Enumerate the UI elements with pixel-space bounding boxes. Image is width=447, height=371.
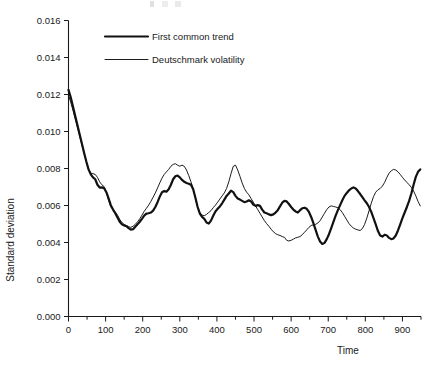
x-tick-label: 400 (209, 324, 225, 335)
y-axis-tick-labels: 0.0000.0020.0040.0060.0080.0100.0120.014… (37, 15, 61, 322)
y-tick-label: 0.012 (37, 89, 61, 100)
x-tick-label: 700 (320, 324, 336, 335)
legend-label-first-common-trend: First common trend (152, 31, 234, 42)
legend-label-deutschmark-volatility: Deutschmark volatility (152, 54, 245, 65)
x-axis-tick-labels: 0100200300400500600700800900 (66, 324, 411, 335)
data-series-group (69, 90, 421, 244)
y-tick-label: 0.014 (37, 52, 61, 63)
x-tick-label: 200 (135, 324, 151, 335)
legend: First common trend Deutschmark volatilit… (105, 31, 245, 65)
series-line-deutschmark-volatility (69, 95, 421, 241)
y-tick-label: 0.008 (37, 163, 61, 174)
y-axis-title: Standard deviation (5, 198, 16, 281)
x-axis-title: Time (337, 345, 359, 356)
y-axis-ticks (64, 21, 69, 317)
x-tick-label: 100 (98, 324, 114, 335)
x-tick-label: 800 (357, 324, 373, 335)
x-tick-label: 300 (172, 324, 188, 335)
x-tick-label: 600 (283, 324, 299, 335)
figure-container: 0.0000.0020.0040.0060.0080.0100.0120.014… (0, 0, 447, 371)
y-tick-label: 0.016 (37, 15, 61, 26)
x-tick-label: 900 (395, 324, 411, 335)
y-tick-label: 0.006 (37, 200, 61, 211)
y-tick-label: 0.000 (37, 311, 61, 322)
y-tick-label: 0.002 (37, 274, 61, 285)
x-axis-ticks (69, 317, 422, 322)
y-tick-label: 0.004 (37, 237, 61, 248)
x-tick-label: 500 (246, 324, 262, 335)
x-tick-label: 0 (66, 324, 71, 335)
y-tick-label: 0.010 (37, 126, 61, 137)
line-chart: 0.0000.0020.0040.0060.0080.0100.0120.014… (0, 0, 447, 371)
